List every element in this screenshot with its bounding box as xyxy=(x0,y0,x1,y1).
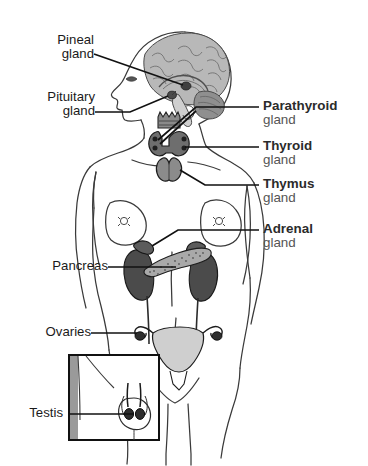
endocrine-system-diagram: Pineal gland Pituitary gland Pancreas Ov… xyxy=(0,0,368,466)
pineal-gland-organ xyxy=(181,82,191,90)
label-pineal-gland-word1: Pineal xyxy=(6,33,94,47)
testis-inset-box xyxy=(69,355,159,440)
label-pancreas[interactable]: Pancreas xyxy=(10,259,108,273)
label-testis-word1: Testis xyxy=(8,406,63,420)
label-pituitary-gland-word2: gland xyxy=(0,104,95,118)
label-ovaries-word1: Ovaries xyxy=(12,325,91,339)
uterus xyxy=(153,327,204,372)
label-parathyroid-gland-word2: gland xyxy=(263,113,337,127)
label-parathyroid-gland-word1: Parathyroid xyxy=(263,99,337,113)
label-pineal-gland-word2: gland xyxy=(6,47,94,61)
label-adrenal-gland[interactable]: Adrenal gland xyxy=(263,222,313,250)
label-adrenal-gland-word1: Adrenal xyxy=(263,222,313,236)
label-thymus-gland-word2: gland xyxy=(263,191,314,205)
cervix xyxy=(170,371,187,390)
testis-right xyxy=(135,409,144,420)
label-pineal-gland[interactable]: Pineal gland xyxy=(6,33,94,60)
inset-thigh-shade xyxy=(70,356,78,439)
label-ovaries[interactable]: Ovaries xyxy=(12,325,91,339)
label-thymus-gland[interactable]: Thymus gland xyxy=(263,177,314,205)
label-thyroid-gland-word2: gland xyxy=(263,153,312,167)
larynx xyxy=(158,112,180,128)
label-pituitary-gland[interactable]: Pituitary gland xyxy=(0,90,95,117)
leader-pituitary[interactable] xyxy=(95,96,168,112)
nipple-marks xyxy=(118,217,225,226)
label-testis[interactable]: Testis xyxy=(8,406,63,420)
eye xyxy=(126,77,137,82)
ovary-right xyxy=(212,332,222,340)
leader-adrenal[interactable] xyxy=(152,230,259,246)
label-thyroid-gland-word1: Thyroid xyxy=(263,139,312,153)
label-pancreas-word1: Pancreas xyxy=(10,259,108,273)
label-thymus-gland-word1: Thymus xyxy=(263,177,314,191)
label-pituitary-gland-word1: Pituitary xyxy=(0,90,95,104)
label-adrenal-gland-word2: gland xyxy=(263,236,313,250)
label-thyroid-gland[interactable]: Thyroid gland xyxy=(263,139,312,167)
leader-thymus[interactable] xyxy=(180,170,259,185)
label-parathyroid-gland[interactable]: Parathyroid gland xyxy=(263,99,337,127)
